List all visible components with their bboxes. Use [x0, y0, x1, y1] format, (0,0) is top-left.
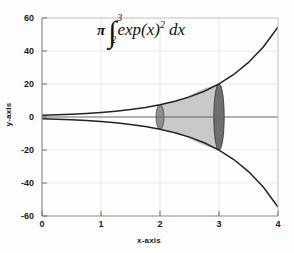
x-tick-label-3: 3 [210, 219, 228, 229]
y-tick-label-40: 40 [8, 46, 34, 56]
integrand-expression: exp(x) [117, 20, 159, 39]
pi-symbol: π [97, 22, 105, 38]
x-tick-label-2: 2 [151, 219, 169, 229]
y-tick-label-60: 60 [8, 13, 34, 23]
y-tick-label-neg20: -20 [8, 145, 34, 155]
x-axis-title: x-axis [137, 236, 161, 245]
integral-upper-limit: 3 [117, 14, 122, 21]
integrand-exponent: 2 [160, 19, 165, 30]
integral-sign: ∫32 [108, 21, 116, 42]
x-tick-label-4: 4 [269, 219, 287, 229]
x-tick-label-0: 0 [33, 219, 51, 229]
y-tick-label-20: 20 [8, 79, 34, 89]
x-tick-label-1: 1 [92, 219, 110, 229]
y-tick-label-neg40: -40 [8, 178, 34, 188]
volume-integral-formula: π∫32exp(x)2dx [97, 20, 185, 42]
differential-dx: dx [169, 20, 185, 39]
figure-container: 60 40 20 0 -20 -40 -60 0 1 2 3 4 x-axis … [0, 0, 294, 253]
y-tick-label-neg60: -60 [8, 211, 34, 221]
y-axis-title: y-axis [4, 93, 13, 137]
integral-lower-limit: 2 [111, 36, 116, 43]
